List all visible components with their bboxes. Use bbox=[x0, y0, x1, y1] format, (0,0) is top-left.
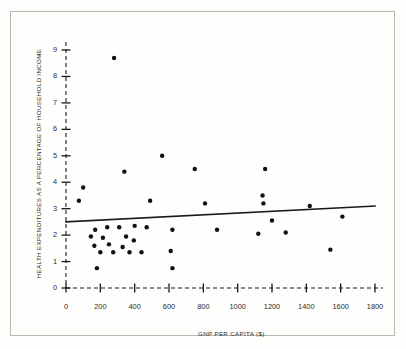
y-tick-label: 8 bbox=[43, 71, 57, 80]
y-tick-label: 2 bbox=[43, 230, 57, 239]
y-tick-label: 6 bbox=[43, 124, 57, 133]
y-tick-label: 4 bbox=[43, 177, 57, 186]
y-tick-label: 1 bbox=[43, 257, 57, 266]
x-tick-label: 800 bbox=[188, 302, 218, 311]
y-tick-label: 9 bbox=[43, 45, 57, 54]
y-tick-label: 0 bbox=[43, 283, 57, 292]
x-tick-label: 0 bbox=[51, 302, 81, 311]
x-tick-label: 1600 bbox=[326, 302, 356, 311]
y-axis-title: HEALTH EXPENDITURES AS A PERCENTAGE OF H… bbox=[35, 49, 42, 279]
x-tick-label: 1400 bbox=[291, 302, 321, 311]
x-tick-label: 1000 bbox=[223, 302, 253, 311]
y-tick-label: 3 bbox=[43, 204, 57, 213]
x-axis bbox=[66, 284, 383, 293]
y-axis bbox=[62, 42, 71, 288]
x-tick-label: 400 bbox=[120, 302, 150, 311]
x-tick-label: 1800 bbox=[360, 302, 390, 311]
figure-container: HEALTH EXPENDITURES AS A PERCENTAGE OF H… bbox=[0, 0, 406, 349]
x-axis-title: GNP PER CAPITA ($) bbox=[198, 330, 378, 337]
data-points bbox=[77, 56, 345, 271]
y-tick-label: 5 bbox=[43, 151, 57, 160]
y-tick-label: 7 bbox=[43, 98, 57, 107]
x-tick-label: 200 bbox=[85, 302, 115, 311]
scatter-plot bbox=[0, 0, 406, 349]
x-tick-label: 600 bbox=[154, 302, 184, 311]
trend-line bbox=[66, 206, 375, 222]
x-tick-label: 1200 bbox=[257, 302, 287, 311]
